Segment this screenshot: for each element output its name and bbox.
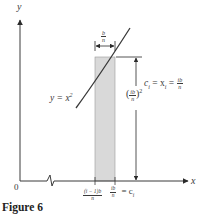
curve-label-exponent: 2 [70,92,73,98]
x-axis-label: x [191,176,195,186]
sample-point-label: ci = xi = ibn [144,77,183,90]
tick-label-right: ibn = ci [110,186,134,198]
width-label-numerator: b [101,30,106,37]
y-axis-label: y [17,2,21,12]
curve-label: y = x2 [50,92,73,104]
curve-label-lhs: y = x [50,93,70,103]
origin-label: 0 [14,183,19,192]
figure-caption: Figure 6 [2,201,43,213]
width-label-denominator: n [102,37,105,43]
width-label: bn [101,27,106,43]
height-dimension [116,57,142,180]
height-label: (ibn)2 [126,88,142,102]
tick-label-left: (i − 1)bn [83,186,102,202]
